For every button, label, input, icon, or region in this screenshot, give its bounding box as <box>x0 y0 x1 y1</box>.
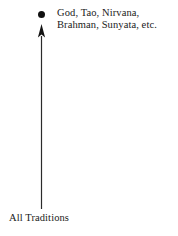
diagram-canvas: God, Tao, Nirvana, Brahman, Sunyata, etc… <box>0 0 178 236</box>
arrow-head <box>38 24 45 38</box>
apex-dot-icon <box>38 11 45 18</box>
base-label: All Traditions <box>9 212 69 224</box>
apex-label-line-1: God, Tao, Nirvana, <box>57 7 175 19</box>
apex-label: God, Tao, Nirvana, Brahman, Sunyata, etc… <box>57 7 175 32</box>
upward-arrow-icon <box>33 22 51 210</box>
apex-label-line-2: Brahman, Sunyata, etc. <box>57 19 175 31</box>
